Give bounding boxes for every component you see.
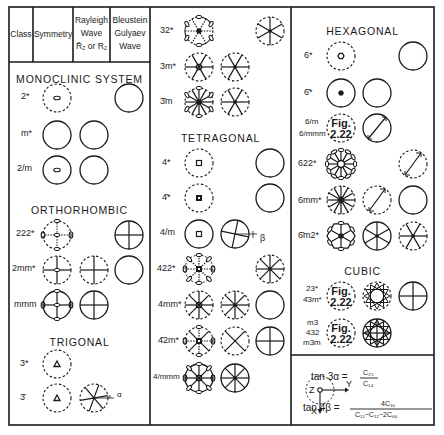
axis-z: Z bbox=[309, 386, 315, 395]
class-23: 23* bbox=[306, 285, 318, 293]
class-4mmm: 4/mmm bbox=[153, 373, 180, 381]
formula-eq1-num: C₂₅ bbox=[363, 369, 374, 376]
class-3bar: 3̄ bbox=[20, 393, 25, 402]
formula-eq2-num: 4C₁₆ bbox=[381, 400, 395, 407]
class-422: 422* bbox=[157, 264, 176, 273]
class-m3m: m3m bbox=[303, 339, 321, 347]
fig-ref-cubic-1: Fig.2.22 bbox=[327, 286, 355, 308]
class-6bar: 6̄* bbox=[304, 88, 313, 97]
class-mmm: mmm bbox=[14, 300, 37, 309]
section-cubic: CUBIC bbox=[291, 266, 434, 277]
fig-ref-hex: Fig.2.22 bbox=[327, 118, 355, 140]
header-bleustein-gulyaev: Bleustein Gulyaev Wave bbox=[110, 14, 150, 53]
header-rayleigh: Rayleigh Wave R̄₂ or R₂ bbox=[73, 14, 110, 53]
class-4bar3m: 4̄3m* bbox=[303, 296, 322, 304]
class-4m: 4/m bbox=[160, 228, 175, 237]
class-6mm: 6mm* bbox=[298, 196, 322, 205]
section-trigonal: TRIGONAL bbox=[9, 337, 150, 348]
class-3m: 3m* bbox=[160, 62, 176, 71]
symmetry-figure bbox=[0, 0, 444, 435]
header-class: Class bbox=[9, 28, 33, 41]
fig-ref-cubic-2: Fig.2.22 bbox=[327, 323, 355, 345]
class-4bar: 4̄* bbox=[162, 193, 171, 202]
class-222: 222* bbox=[16, 229, 35, 238]
formula-eq2-den: C₁₁−C₁₂−2C₆₆ bbox=[355, 411, 398, 418]
section-tetragonal: TETRAGONAL bbox=[150, 133, 291, 144]
class-3barm: 3̄m bbox=[160, 97, 173, 106]
class-432: 432 bbox=[306, 329, 319, 337]
class-m3: m3 bbox=[307, 319, 318, 327]
class-32: 32* bbox=[160, 26, 174, 35]
class-m: m* bbox=[21, 129, 32, 138]
header-symmetry: Symmetry bbox=[33, 28, 73, 41]
formula-eq1-den: C₁₄ bbox=[363, 380, 373, 387]
angle-beta: β bbox=[260, 234, 265, 243]
class-2: 2* bbox=[21, 92, 30, 101]
formula-eq2-lhs: tan 4β = bbox=[303, 403, 340, 413]
class-6m: 6/m bbox=[305, 118, 318, 126]
class-2mm: 2mm* bbox=[12, 264, 36, 273]
class-4: 4* bbox=[162, 158, 171, 167]
class-6: 6* bbox=[304, 51, 313, 60]
class-4mm: 4mm* bbox=[158, 300, 182, 309]
section-orthorhombic: ORTHORHOMBIC bbox=[9, 205, 150, 216]
section-hexagonal: HEXAGONAL bbox=[291, 26, 434, 37]
formula-eq1-lhs: tan 3α = bbox=[311, 372, 348, 382]
class-2m: 2/m bbox=[17, 164, 32, 173]
class-4bar2m: 4̄2m* bbox=[158, 336, 179, 345]
angle-alpha: α bbox=[117, 391, 122, 399]
class-6mmm: 6/mmm bbox=[299, 130, 326, 138]
class-6barm2: 6̄m2* bbox=[298, 231, 319, 240]
class-3: 3* bbox=[20, 359, 29, 368]
section-monoclinic: MONOCLINIC SYSTEM bbox=[9, 74, 150, 85]
class-622: 622* bbox=[298, 159, 317, 168]
